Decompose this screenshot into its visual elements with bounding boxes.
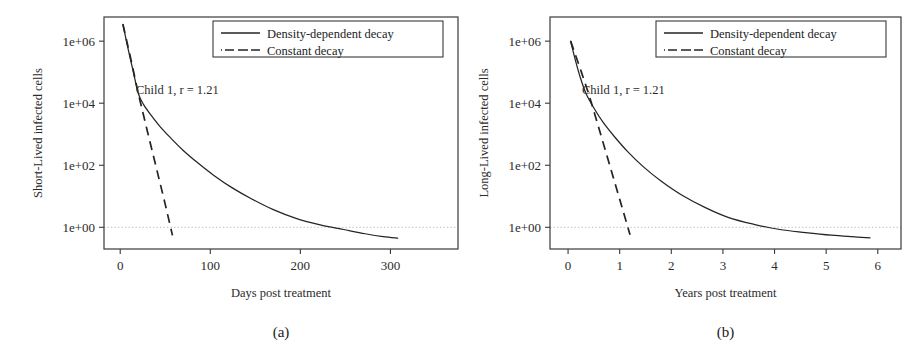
chart-panel-b: 1e+001e+021e+041e+060123456Years post tr… — [461, 0, 922, 345]
x-tick-label-a-2: 200 — [291, 258, 311, 273]
x-tick-label-b-2: 2 — [668, 258, 675, 273]
figure-root: 1e+001e+021e+041e+060100200300Days post … — [0, 0, 922, 345]
x-axis-label-a: Days post treatment — [231, 286, 332, 300]
legend-b: Density-dependent decayConstant decay — [656, 21, 886, 58]
x-tick-label-b-3: 3 — [720, 258, 727, 273]
panel-caption-b: (b) — [717, 324, 735, 341]
legend-a: Density-dependent decayConstant decay — [213, 21, 443, 58]
legend-label-constant-a: Constant decay — [267, 44, 344, 58]
y-tick-label-a-1: 1e+02 — [62, 158, 95, 173]
legend-label-density-dependent-b: Density-dependent decay — [710, 27, 837, 41]
x-axis-label-b: Years post treatment — [674, 286, 777, 300]
series-constant-b — [571, 41, 630, 235]
x-tick-label-b-6: 6 — [875, 258, 882, 273]
series-density-dependent-b — [571, 41, 870, 238]
chart-svg-a: 1e+001e+021e+041e+060100200300Days post … — [0, 0, 461, 345]
x-tick-label-b-5: 5 — [823, 258, 830, 273]
x-tick-label-b-0: 0 — [565, 258, 572, 273]
legend-label-density-dependent-a: Density-dependent decay — [267, 27, 394, 41]
y-tick-label-b-0: 1e+00 — [508, 220, 541, 235]
y-tick-label-b-3: 1e+06 — [508, 34, 541, 49]
panel-caption-a: (a) — [273, 324, 290, 341]
chart-svg-b: 1e+001e+021e+041e+060123456Years post tr… — [461, 0, 922, 345]
x-tick-label-a-1: 100 — [201, 258, 221, 273]
x-tick-label-b-4: 4 — [771, 258, 778, 273]
y-tick-label-b-1: 1e+02 — [508, 158, 541, 173]
chart-annotation-b: Child 1, r = 1.21 — [582, 83, 665, 97]
chart-annotation-a: Child 1, r = 1.21 — [136, 83, 219, 97]
chart-panel-a: 1e+001e+021e+041e+060100200300Days post … — [0, 0, 461, 345]
legend-label-constant-b: Constant decay — [710, 44, 787, 58]
x-tick-label-a-3: 300 — [381, 258, 401, 273]
x-tick-label-b-1: 1 — [616, 258, 623, 273]
y-axis-label-a: Short-Lived infected cells — [31, 68, 45, 198]
y-tick-label-a-3: 1e+06 — [62, 34, 95, 49]
y-tick-label-a-2: 1e+04 — [62, 96, 95, 111]
y-tick-label-b-2: 1e+04 — [508, 96, 541, 111]
y-axis-label-b: Long-Lived infected cells — [477, 68, 491, 197]
x-tick-label-a-0: 0 — [117, 258, 124, 273]
series-constant-a — [123, 24, 173, 235]
y-tick-label-a-0: 1e+00 — [62, 220, 95, 235]
